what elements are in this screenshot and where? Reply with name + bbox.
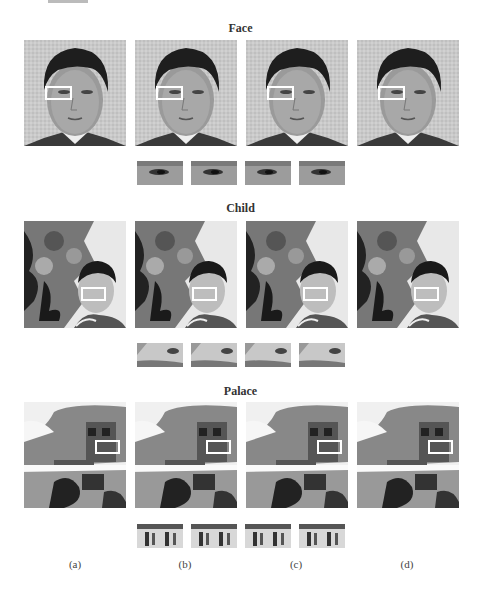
- child-image-a: [24, 221, 126, 328]
- highlight-box: [81, 287, 106, 301]
- highlight-box: [303, 287, 328, 301]
- face-crop-d: [299, 161, 345, 185]
- highlight-box: [95, 440, 120, 454]
- highlight-box: [156, 86, 183, 100]
- cropped-header-text: [48, 0, 88, 3]
- child-image-c: [246, 221, 348, 328]
- palace-image-b: [135, 402, 237, 508]
- highlight-box: [378, 86, 405, 100]
- column-label-b: (b): [165, 558, 205, 570]
- highlight-box: [206, 440, 231, 454]
- highlight-box: [45, 86, 72, 100]
- palace-crop-b: [191, 524, 237, 548]
- palace-crop-a: [137, 524, 183, 548]
- child-crop-c: [245, 343, 291, 367]
- face-crop-b: [191, 161, 237, 185]
- palace-image-a: [24, 402, 126, 508]
- section-title-face: Face: [0, 21, 481, 36]
- highlight-box: [267, 86, 294, 100]
- column-label-c: (c): [276, 558, 316, 570]
- section-title-child: Child: [0, 201, 481, 216]
- palace-image-d: [357, 402, 459, 508]
- palace-crop-c: [245, 524, 291, 548]
- child-image-b: [135, 221, 237, 328]
- section-title-palace: Palace: [0, 384, 481, 399]
- child-image-d: [357, 221, 459, 328]
- palace-image-c: [246, 402, 348, 508]
- highlight-box: [428, 440, 453, 454]
- child-crop-b: [191, 343, 237, 367]
- child-crop-a: [137, 343, 183, 367]
- highlight-box: [317, 440, 342, 454]
- palace-crop-d: [299, 524, 345, 548]
- face-crop-c: [245, 161, 291, 185]
- face-image-a: [24, 40, 126, 146]
- highlight-box: [192, 287, 217, 301]
- highlight-box: [414, 287, 439, 301]
- column-label-d: (d): [387, 558, 427, 570]
- face-image-b: [135, 40, 237, 146]
- face-image-d: [357, 40, 459, 146]
- column-label-a: (a): [55, 558, 95, 570]
- face-crop-a: [137, 161, 183, 185]
- face-image-c: [246, 40, 348, 146]
- child-crop-d: [299, 343, 345, 367]
